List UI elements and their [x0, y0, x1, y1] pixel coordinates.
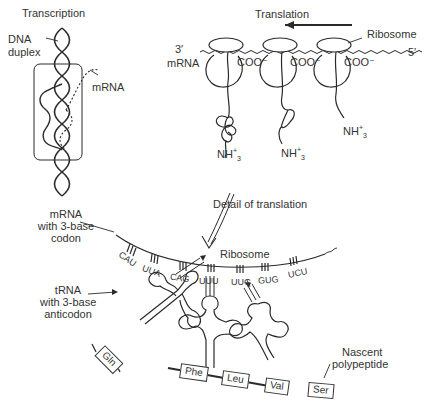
transcription-title: Transcription [22, 7, 85, 19]
amino-base: NH [343, 125, 359, 137]
detail-mrna-label-line2: with 3-base [36, 220, 96, 232]
amino-sup: + [359, 124, 363, 131]
trna-label-line3: anticodon [40, 308, 96, 320]
transcription-mrna-label: mRNA [92, 81, 124, 93]
amino-base: NH [217, 148, 233, 160]
amino-sub: 3 [363, 132, 367, 139]
codon-6: GUG [258, 274, 279, 285]
detail-arrow-label: Detail of translation [213, 198, 307, 210]
amino-terminus-1: NH+3 [217, 145, 241, 165]
translation-title: Translation [255, 8, 309, 20]
trna-label: tRNA [40, 284, 96, 296]
amino-sup: + [297, 146, 301, 153]
carboxyl-label-1: COO⁻ [237, 56, 268, 68]
detail-mrna-label: mRNA [36, 208, 96, 220]
dna-label-line2: duplex [8, 46, 40, 58]
dna-double-helix-icon [34, 28, 98, 196]
detail-mrna-label-line3: codon [36, 232, 96, 244]
nascent-polypeptide-label-line2: polypeptide [332, 358, 388, 370]
three-prime-end: 3′ [175, 43, 183, 55]
amino-terminus-3: NH+3 [343, 122, 367, 142]
polysome-mrna-label: mRNA [167, 57, 199, 69]
amino-acid-val: Val [264, 377, 290, 395]
ribosome-label: Ribosome [367, 28, 417, 40]
nascent-polypeptide-label: Nascent [342, 346, 382, 358]
carboxyl-label-3: COO⁻ [344, 56, 375, 68]
amino-sup: + [233, 147, 237, 154]
amino-base: NH [281, 147, 297, 159]
detail-ribosome-label: Ribosome [220, 248, 270, 260]
codon-5: UUG [231, 277, 251, 287]
five-prime-end: 5′ [408, 46, 416, 58]
dna-label: DNA [8, 33, 31, 45]
codon-4: UUU [199, 276, 219, 286]
amino-sub: 3 [301, 154, 305, 161]
amino-terminus-2: NH+3 [281, 144, 305, 164]
amino-acid-ser: Ser [307, 382, 334, 399]
carboxyl-label-2: COO⁻ [290, 56, 321, 68]
amino-sub: 3 [237, 155, 241, 162]
trna-label-line2: with 3-base [40, 296, 96, 308]
